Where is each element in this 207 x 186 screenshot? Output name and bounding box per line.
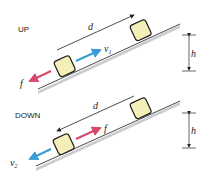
- height-label-up: h: [191, 48, 196, 59]
- height-label-down: h: [191, 125, 196, 136]
- velocity-label-down: v2: [10, 157, 17, 169]
- friction-label-down: f: [104, 123, 108, 134]
- distance-label-down: d: [93, 100, 99, 111]
- incline-down: [36, 101, 180, 171]
- panel-up: UP d v1 f: [18, 15, 196, 94]
- distance-arrow-up: [57, 15, 134, 50]
- panel-title-down: DOWN: [15, 111, 41, 120]
- friction-arrow-down: [76, 128, 100, 139]
- friction-label-up: f: [20, 78, 24, 89]
- distance-label-up: d: [88, 21, 94, 32]
- friction-arrow-up: [30, 71, 51, 81]
- panel-down: DOWN d f v2: [10, 96, 196, 171]
- block-top-down: [129, 97, 152, 120]
- velocity-arrow-down: [30, 149, 51, 159]
- panel-title-up: UP: [18, 25, 29, 34]
- velocity-arrow-up: [76, 50, 100, 61]
- block-bottom-up: [53, 55, 76, 78]
- incline-diagram: UP d v1 f: [0, 0, 207, 186]
- velocity-label-up: v1: [104, 43, 111, 55]
